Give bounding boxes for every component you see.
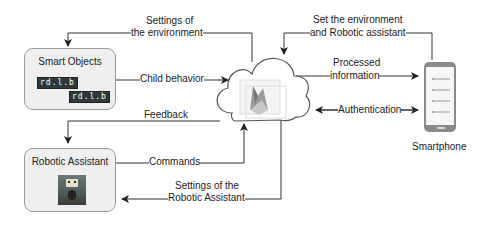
label-settings-environment-line2: the environment [131, 27, 203, 38]
label-set-environment-line1: Set the environment [313, 14, 403, 25]
robot-body-icon [68, 190, 76, 200]
smart-objects-title: Smart Objects [25, 56, 115, 67]
label-commands: Commands [149, 156, 200, 167]
label-settings-robot-line2: Robotic Assistant [168, 192, 245, 203]
smart-object-chip: rd.l.b [69, 91, 110, 103]
robot-head-icon [66, 179, 78, 187]
cloud-icon [217, 58, 309, 121]
robotic-assistant-node[interactable]: Robotic Assistant [24, 148, 116, 212]
label-set-environment-line2: and Robotic assistant [310, 27, 406, 38]
smart-object-chip: rd.l.b [37, 77, 78, 89]
robot-photo [58, 175, 86, 205]
smartphone-icon [424, 62, 456, 132]
edge-feedback [68, 121, 220, 143]
label-child-behavior: Child behavior [140, 73, 204, 84]
label-settings-environment-line1: Settings of [146, 15, 193, 26]
label-processed-info-line2: information [330, 70, 379, 81]
label-feedback: Feedback [144, 109, 188, 120]
smart-objects-node[interactable]: Smart Objects rd.l.b rd.l.b [24, 48, 116, 110]
robotic-assistant-title: Robotic Assistant [25, 156, 115, 167]
smartphone-label: Smartphone [412, 141, 466, 152]
label-authentication: Authentication [338, 104, 401, 115]
label-settings-robot-line1: Settings of the [175, 180, 239, 191]
label-processed-info-line1: Processed [333, 57, 380, 68]
